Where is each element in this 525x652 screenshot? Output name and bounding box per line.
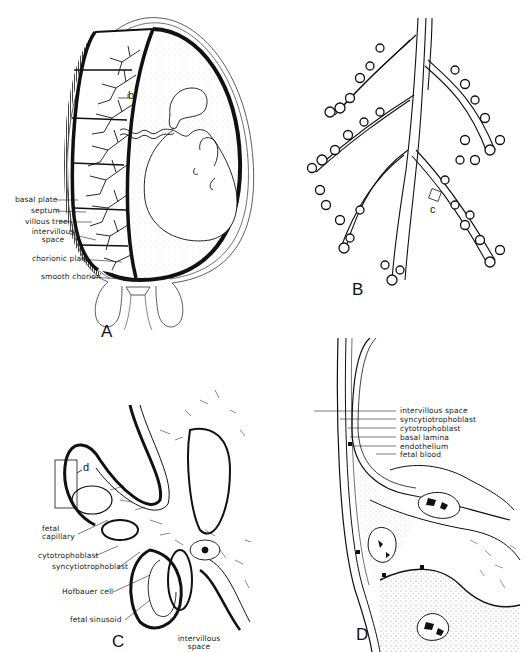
- panel-d-placental-barrier: intervillous space syncytiotrophoblast c…: [270, 330, 525, 652]
- label-fetal-capillary-line2: capillary: [42, 532, 75, 541]
- label-fetal-sinusoid: fetal sinusoid: [70, 616, 122, 624]
- label-intervillous-line2: space: [42, 235, 65, 244]
- uterus-illustration: [0, 0, 260, 330]
- label-intervillous-space-c: intervillous space: [174, 635, 224, 651]
- label-syncytiotrophoblast-d: syncytiotrophoblast: [400, 416, 476, 424]
- villus-section-illustration: [0, 330, 270, 652]
- villous-tree-illustration: [260, 0, 525, 330]
- panel-letter-c: C: [112, 632, 124, 652]
- label-fetal-blood: fetal blood: [400, 451, 441, 459]
- label-chorionic-plate: chorionic plate: [32, 255, 89, 263]
- panel-b-villous-tree: c B: [260, 0, 525, 330]
- panel-c-villus-section: d fetal capillary cytotrophoblast syncyt…: [0, 330, 270, 652]
- label-basal-lamina: basal lamina: [400, 434, 449, 442]
- label-fetal-capillary: fetal capillary: [42, 525, 75, 541]
- callout-c: c: [430, 203, 436, 215]
- panel-letter-d: D: [356, 625, 368, 645]
- callout-b: b: [128, 89, 134, 101]
- panel-a-uterus-diagram: b basal plate septum villous tree interv…: [0, 0, 260, 330]
- label-smooth-chorion: smooth chorion: [41, 273, 101, 281]
- label-hofbauer-cell: Hofbauer cell: [62, 588, 113, 596]
- label-cytotrophoblast-d: cytotrophoblast: [400, 425, 460, 433]
- label-intervillous-c-line2: space: [188, 642, 211, 651]
- label-intervillous-space-a: intervillous space: [30, 228, 76, 244]
- label-basal-plate: basal plate: [15, 196, 57, 204]
- callout-d: d: [83, 461, 89, 473]
- label-intervillous-space-d: intervillous space: [400, 407, 468, 415]
- panel-letter-b: B: [352, 280, 363, 300]
- label-septum: septum: [31, 207, 60, 215]
- placental-barrier-illustration: [270, 330, 525, 652]
- label-villous-tree: villous tree: [25, 218, 68, 226]
- label-cytotrophoblast-c: cytotrophoblast: [38, 552, 98, 560]
- label-syncytiotrophoblast-c: syncytiotrophoblast: [52, 563, 128, 571]
